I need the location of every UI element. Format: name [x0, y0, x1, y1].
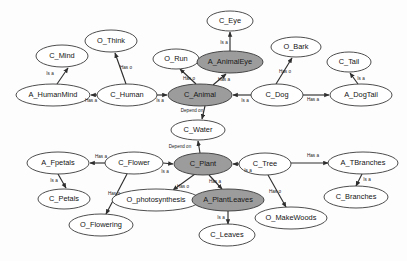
node-label: A_DogTail [344, 90, 378, 99]
edge-label: Has o [269, 189, 281, 194]
node-label: O_Run [164, 54, 187, 63]
node-label: C_Water [184, 125, 213, 134]
edge-label: Is a [220, 40, 228, 45]
edge-label: Has a [209, 179, 221, 184]
node-o_flowering[interactable]: O_Flowering [69, 214, 133, 236]
node-label: C_Dog [265, 90, 288, 99]
node-label: C_Animal [184, 90, 216, 99]
node-o_bark[interactable]: O_Bark [271, 37, 321, 57]
edge-label: Has a [95, 154, 107, 159]
nodes-layer: C_MindO_ThinkO_RunC_EyeA_AnimalEyeO_Bark… [16, 11, 398, 246]
edge-label: Is a [241, 98, 249, 103]
edge-label: Has o [279, 69, 291, 74]
node-c_mind[interactable]: C_Mind [36, 45, 88, 67]
edge-a_fpetals-to-c_petals [58, 174, 66, 188]
edge-c_flower-to-c_plant [163, 163, 173, 164]
node-label: O_Flowering [80, 220, 122, 229]
node-o_think[interactable]: O_Think [85, 30, 137, 52]
node-a_tbranches[interactable]: A_TBranches [328, 152, 398, 174]
node-c_flower[interactable]: C_Flower [105, 152, 163, 174]
node-o_makewoods[interactable]: O_MakeWoods [255, 207, 327, 229]
edge-label: Has a [307, 153, 319, 158]
node-label: A_Fpetals [41, 158, 75, 167]
node-label: A_PlantLeaves [203, 195, 253, 204]
node-label: C_Tree [253, 159, 277, 168]
edge-label: Is a [363, 177, 371, 182]
node-o_photosynthesis[interactable]: O_photosynthesis [112, 189, 200, 211]
edge-label: Is a [357, 76, 365, 81]
node-label: C_Leaves [210, 230, 244, 239]
node-label: C_Flower [118, 158, 150, 167]
diagram-canvas: C_MindO_ThinkO_RunC_EyeA_AnimalEyeO_Bark… [0, 0, 407, 261]
edge-label: Has o [108, 191, 120, 196]
node-label: O_Bark [283, 42, 308, 51]
edge-label: Depend on [181, 108, 204, 113]
edge-label: Is a [161, 169, 169, 174]
node-o_run[interactable]: O_Run [153, 49, 199, 69]
node-c_plant[interactable]: C_Plant [174, 153, 232, 175]
node-label: C_Mind [49, 51, 74, 60]
node-label: C_Branches [336, 192, 377, 201]
node-label: A_TBranches [341, 158, 386, 167]
edge-a_humanmind-to-c_mind [57, 68, 68, 84]
node-c_eye[interactable]: C_Eye [207, 11, 253, 31]
edge-label: Has o [120, 65, 132, 70]
node-c_human[interactable]: C_Human [97, 84, 157, 106]
node-c_tail[interactable]: C_Tail [327, 52, 371, 72]
node-label: C_Eye [219, 16, 241, 25]
node-label: C_Human [110, 90, 143, 99]
node-c_animal[interactable]: C_Animal [168, 84, 232, 106]
node-c_branches[interactable]: C_Branches [324, 186, 388, 208]
edge-label: Depend on [169, 144, 192, 149]
edge-label: Has a [85, 98, 97, 103]
node-c_petals[interactable]: C_Petals [38, 189, 90, 209]
node-label: A_AnimalEye [208, 57, 252, 66]
edge-c_plant-to-c_water [198, 141, 200, 153]
edge-label: Has o [183, 76, 195, 81]
edge-label: Is a [46, 71, 54, 76]
node-label: O_photosynthesis [126, 195, 185, 204]
node-label: C_Tail [339, 57, 360, 66]
edge-label: Is a [217, 215, 225, 220]
ontology-graph: C_MindO_ThinkO_RunC_EyeA_AnimalEyeO_Bark… [0, 0, 407, 261]
node-label: O_Think [97, 36, 125, 45]
node-a_plantleaves[interactable]: A_PlantLeaves [192, 189, 264, 211]
edge-label: Has o [177, 184, 189, 189]
node-c_dog[interactable]: C_Dog [251, 84, 303, 106]
node-label: C_Plant [190, 159, 216, 168]
edge-a_tbranches-to-c_branches [356, 174, 362, 186]
node-label: A_HumanMind [29, 90, 78, 99]
edge-label: Is a [50, 178, 58, 183]
edge-label: Is a [244, 168, 252, 173]
node-c_water[interactable]: C_Water [171, 120, 225, 140]
node-a_dogtail[interactable]: A_DogTail [330, 84, 392, 106]
node-c_leaves[interactable]: C_Leaves [199, 224, 255, 246]
edge-label: Has a [218, 77, 230, 82]
node-a_animaleye[interactable]: A_AnimalEye [197, 51, 263, 73]
node-a_humanmind[interactable]: A_HumanMind [16, 84, 90, 106]
node-label: O_MakeWoods [266, 213, 317, 222]
node-a_fpetals[interactable]: A_Fpetals [27, 152, 89, 174]
edge-label: Is a [156, 98, 164, 103]
edge-label: Has a [307, 97, 319, 102]
node-label: C_Petals [49, 194, 79, 203]
